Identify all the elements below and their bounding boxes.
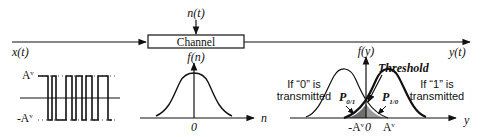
binary-waveform: Av -Av <box>17 69 120 124</box>
one-case-line2: transmitted <box>410 90 464 102</box>
p10-arrow <box>378 106 386 114</box>
output-label: y(t) <box>448 45 466 59</box>
zero-case-line2: transmitted <box>277 90 331 102</box>
noise-pdf-plot: f(n) n 0 <box>140 50 267 134</box>
p01-arrow <box>346 106 354 114</box>
p10-label: P1/0 <box>382 90 399 106</box>
system-block: x(t) Channel n(t) y(t) <box>11 6 470 59</box>
pos-mean-label: Av <box>383 121 395 133</box>
neg-mean-label: -Av <box>348 121 364 133</box>
noise-pdf-label: f(n) <box>187 50 204 64</box>
channel-label: Channel <box>177 36 215 48</box>
noise-label: n(t) <box>187 6 204 20</box>
threshold-arrow <box>368 75 382 102</box>
high-level-label: Av <box>22 69 34 81</box>
zero-case-line1: If “0” is <box>287 78 321 90</box>
noise-x-label: n <box>261 111 267 125</box>
communication-channel-diagram: x(t) Channel n(t) y(t) Av -Av f(n) n 0 <box>0 0 483 137</box>
received-pdf-plot: f(y) y Threshold -Av 0 Av If “0” is tran… <box>277 44 470 134</box>
p01-label: P0/1 <box>339 90 355 106</box>
threshold-label: Threshold <box>378 61 430 75</box>
received-origin-label: 0 <box>365 120 371 134</box>
noise-origin-label: 0 <box>191 120 197 134</box>
low-level-label: -Av <box>17 112 33 124</box>
received-x-label: y <box>463 113 470 127</box>
input-label: x(t) <box>11 45 29 59</box>
one-case-line1: If “1” is <box>420 78 454 90</box>
received-pdf-label: f(y) <box>358 44 375 58</box>
